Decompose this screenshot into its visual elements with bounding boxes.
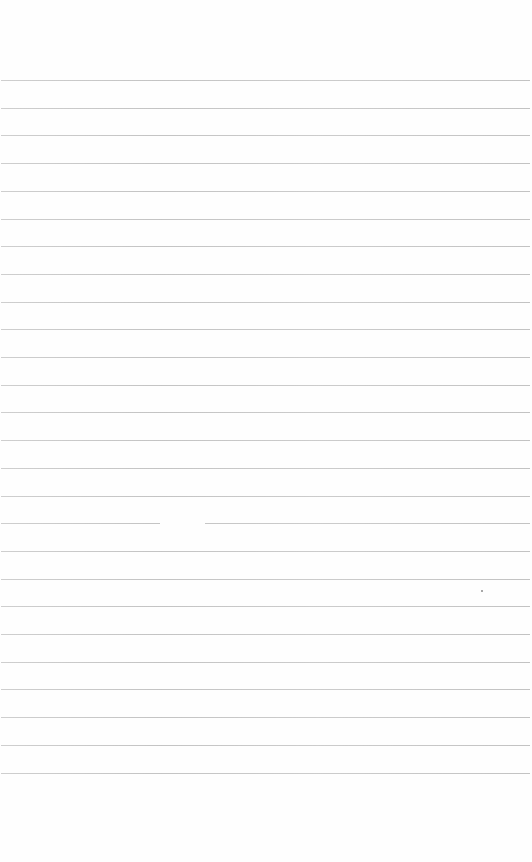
ruled-line bbox=[1, 274, 530, 275]
ruled-line bbox=[1, 385, 530, 386]
ruled-line bbox=[1, 108, 530, 109]
ruled-line bbox=[1, 412, 530, 413]
ruled-line bbox=[1, 246, 530, 247]
ruled-line bbox=[1, 357, 530, 358]
ruled-line bbox=[1, 440, 530, 441]
ink-speck bbox=[481, 590, 483, 592]
ruled-line bbox=[1, 329, 530, 330]
notebook-page bbox=[0, 0, 532, 862]
ruled-line bbox=[1, 689, 530, 690]
ruled-line bbox=[1, 745, 530, 746]
ruled-line bbox=[1, 773, 530, 774]
line-break-gap bbox=[160, 522, 205, 525]
ruled-line bbox=[1, 135, 530, 136]
ruled-line bbox=[1, 523, 530, 524]
ruled-line bbox=[1, 468, 530, 469]
ruled-line bbox=[1, 302, 530, 303]
ruled-line bbox=[1, 551, 530, 552]
ruled-line bbox=[1, 219, 530, 220]
ruled-line bbox=[1, 579, 530, 580]
ruled-line bbox=[1, 606, 530, 607]
ruled-line bbox=[1, 634, 530, 635]
ruled-line bbox=[1, 662, 530, 663]
ruled-line bbox=[1, 496, 530, 497]
ruled-line bbox=[1, 717, 530, 718]
ruled-line bbox=[1, 80, 530, 81]
ruled-line bbox=[1, 191, 530, 192]
ruled-line bbox=[1, 163, 530, 164]
